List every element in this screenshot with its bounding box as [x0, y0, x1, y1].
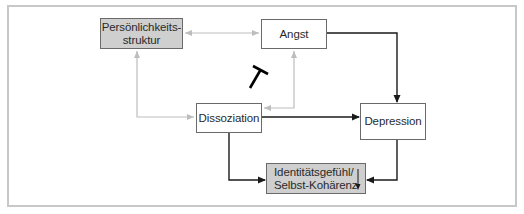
node-label: Dissoziation — [199, 112, 260, 125]
node-label: Persönlichkeits- — [102, 21, 182, 34]
edge-angst-depression — [327, 33, 397, 102]
edge-persoenlichkeit-dissoziation — [137, 51, 194, 117]
node-label: Selbst-Kohärenz — [274, 179, 358, 192]
node-angst: Angst — [261, 19, 327, 49]
node-persoenlichkeitsstruktur: Persönlichkeits- struktur — [100, 18, 183, 49]
edge-angst-dissoziation — [264, 51, 294, 108]
node-label: Angst — [280, 28, 309, 41]
edge-dissoziation-identitaet — [229, 133, 265, 180]
node-label: struktur — [123, 34, 161, 47]
node-dissoziation: Dissoziation — [196, 103, 262, 133]
node-identitaetsgefuehl: Identitätsgefühl/ Selbst-Kohärenz — [266, 163, 366, 194]
decrease-arrow-icon — [355, 169, 361, 190]
node-depression: Depression — [360, 103, 426, 140]
node-label: Depression — [364, 115, 421, 128]
edge-depression-identitaet — [367, 140, 397, 180]
inhibition-icon — [250, 66, 268, 88]
node-label: Identitätsgefühl/ — [274, 166, 354, 179]
